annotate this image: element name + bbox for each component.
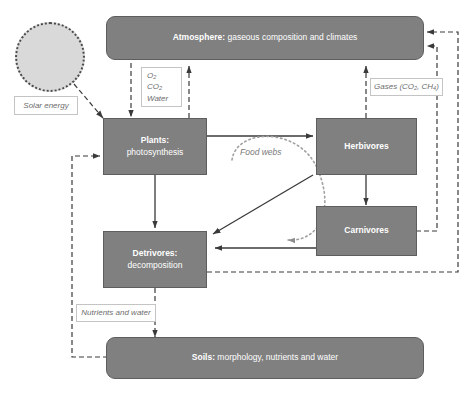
label-nutrients-and-water: Nutrients and water [76,304,156,322]
label-gas-exchange: O₂ CO₂ Water [141,67,182,107]
node-soils-title: Soils: [192,352,218,362]
node-detrivores-text: Detrivores: decomposition [128,248,183,271]
node-atmosphere-title: Atmosphere: [173,32,228,42]
node-plants-title: Plants: [127,135,184,146]
node-carnivores-title: Carnivores [344,225,388,236]
node-soils-text: Soils: morphology, nutrients and water [192,352,338,363]
label-nutrients-and-water-text: Nutrients and water [81,307,150,319]
node-herbivores[interactable]: Herbivores [316,118,417,175]
label-gas-exchange-line-3: Water [147,93,168,105]
node-atmosphere[interactable]: Atmosphere: gaseous composition and clim… [106,16,424,60]
node-plants[interactable]: Plants: photosynthesis [103,118,207,175]
label-solar-energy: Solar energy [14,96,78,115]
node-soils[interactable]: Soils: morphology, nutrients and water [106,337,424,379]
label-solar-energy-text: Solar energy [23,100,68,112]
label-gases-text: Gases (CO₂, CH₄) [374,81,439,93]
sun-icon [15,22,85,92]
label-food-webs: Food webs [240,147,282,157]
node-detrivores[interactable]: Detrivores: decomposition [103,231,207,288]
carnivores-to-atmosphere-connector [416,46,437,231]
label-gas-exchange-line-2: CO₂ [147,81,162,93]
node-detrivores-subtitle: decomposition [128,260,183,271]
solar-energy-connector [74,84,103,118]
herbivores-to-detrivores-connector [213,175,313,234]
node-detrivores-title: Detrivores: [128,248,183,259]
label-gases: Gases (CO₂, CH₄) [370,78,443,96]
node-carnivores[interactable]: Carnivores [316,206,417,256]
node-atmosphere-subtitle: gaseous composition and climates [227,32,357,42]
node-atmosphere-text: Atmosphere: gaseous composition and clim… [173,32,358,43]
node-soils-subtitle: morphology, nutrients and water [217,352,338,362]
node-herbivores-title: Herbivores [344,141,388,152]
node-plants-text: Plants: photosynthesis [127,135,184,158]
label-gas-exchange-line-1: O₂ [147,70,156,82]
node-plants-subtitle: photosynthesis [127,147,184,158]
diagram-canvas: Atmosphere: gaseous composition and clim… [0,0,476,396]
